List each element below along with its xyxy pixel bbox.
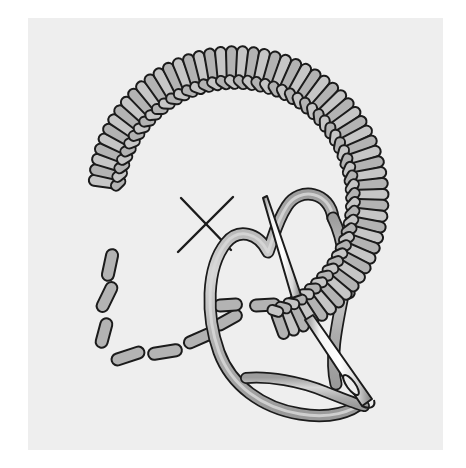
- buttonhole-stitch-arc: [88, 46, 389, 340]
- guide-dash: [94, 317, 113, 349]
- diagram-svg: [0, 0, 466, 468]
- guide-dash: [110, 345, 146, 367]
- guide-dash: [147, 343, 182, 360]
- guide-dash: [101, 248, 119, 282]
- figure-root: A needlework diagram showing a buttonhol…: [0, 0, 466, 468]
- guide-dash: [214, 298, 243, 312]
- guide-dash: [95, 280, 120, 314]
- illustration-artwork: [0, 0, 466, 468]
